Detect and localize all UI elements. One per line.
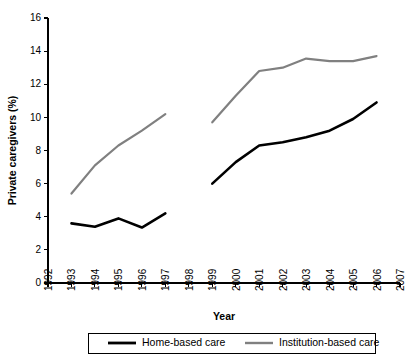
x-tick-label: 2007 <box>395 268 406 291</box>
y-tick-label: 12 <box>30 78 42 89</box>
chart-figure: 0246810121416199219931994199519961997199… <box>0 0 410 363</box>
x-tick-label: 1994 <box>90 268 101 291</box>
y-tick-label: 14 <box>30 45 42 56</box>
x-tick-label: 1997 <box>160 268 171 291</box>
x-axis-title: Year <box>213 310 235 322</box>
series-line-home-based-care <box>71 213 165 227</box>
y-axis-title: Private caregivers (%) <box>6 96 18 206</box>
x-tick-label: 2001 <box>254 268 265 291</box>
legend-label-institution-based-care: Institution-based care <box>279 336 380 348</box>
series-line-home-based-care <box>212 102 376 183</box>
line-chart: 0246810121416199219931994199519961997199… <box>0 0 410 363</box>
x-tick-label: 2004 <box>325 268 336 291</box>
x-tick-label: 2000 <box>231 268 242 291</box>
legend-label-home-based-care: Home-based care <box>142 336 226 348</box>
x-tick-label: 2006 <box>372 268 383 291</box>
y-tick-label: 16 <box>30 12 42 23</box>
y-tick-label: 6 <box>35 178 41 189</box>
x-tick-label: 1998 <box>184 268 195 291</box>
x-tick-label: 2005 <box>348 268 359 291</box>
series-line-institution-based-care <box>71 114 165 194</box>
y-tick-label: 10 <box>30 112 42 123</box>
y-tick-label: 8 <box>35 145 41 156</box>
series-line-institution-based-care <box>212 56 376 122</box>
x-tick-label: 1992 <box>43 268 54 291</box>
x-tick-label: 1993 <box>66 268 77 291</box>
y-tick-label: 0 <box>35 277 41 288</box>
x-tick-label: 2003 <box>301 268 312 291</box>
x-tick-label: 1995 <box>113 268 124 291</box>
x-tick-label: 1996 <box>137 268 148 291</box>
x-tick-label: 1999 <box>207 268 218 291</box>
y-tick-label: 2 <box>35 244 41 255</box>
x-tick-label: 2002 <box>278 268 289 291</box>
y-tick-label: 4 <box>35 211 41 222</box>
